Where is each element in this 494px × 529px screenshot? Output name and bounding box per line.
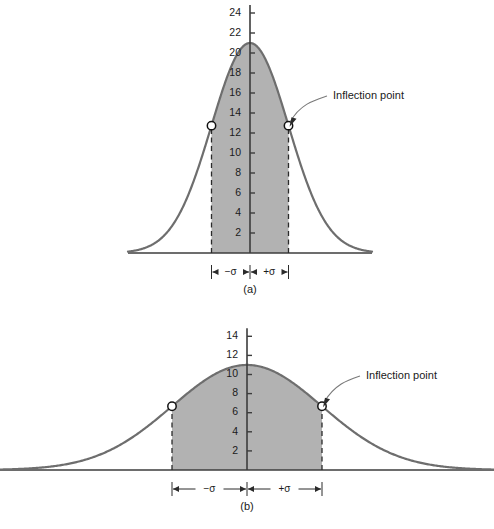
y-tick-label: 12 <box>226 348 238 360</box>
inflection-point-marker <box>207 121 215 129</box>
y-tick-label: 8 <box>235 166 241 178</box>
panel-a-caption: (a) <box>243 283 256 295</box>
y-tick-label: 12 <box>229 126 241 138</box>
y-tick-label: 10 <box>229 146 241 158</box>
y-tick-label: 2 <box>232 444 238 456</box>
sigma-arrowhead-right <box>282 269 288 275</box>
sigma-label: −σ <box>225 266 238 277</box>
y-tick-label: 24 <box>229 6 241 18</box>
y-tick-label: 14 <box>229 106 241 118</box>
y-tick-label: 8 <box>232 386 238 398</box>
y-tick-label: 22 <box>229 26 241 38</box>
y-tick-label: 18 <box>229 66 241 78</box>
panel-b: 2468101214 Inflection point −σ+σ (b) <box>0 328 494 512</box>
inflection-point-marker <box>168 402 176 410</box>
y-tick-label: 10 <box>226 367 238 379</box>
panel-b-annotation-label: Inflection point <box>366 369 437 381</box>
sigma-arrowhead-right <box>243 269 249 275</box>
y-tick-label: 6 <box>232 405 238 417</box>
panel-a-annotation-label: Inflection point <box>333 89 404 101</box>
panel-a-annotation-leader <box>291 96 328 122</box>
sigma-arrowhead-left <box>248 486 254 492</box>
sigma-arrowhead-left <box>173 486 179 492</box>
panel-b-caption: (b) <box>240 500 253 512</box>
panel-b-sigma-markers: −σ+σ <box>172 482 322 496</box>
sigma-arrowhead-right <box>315 486 321 492</box>
panel-a-sigma-markers: −σ+σ <box>212 265 289 279</box>
y-tick-label: 16 <box>229 86 241 98</box>
sigma-label: +σ <box>263 266 276 277</box>
y-tick-label: 4 <box>232 425 238 437</box>
y-tick-label: 4 <box>235 206 241 218</box>
panel-b-annotation-leader <box>324 376 360 402</box>
sigma-arrowhead-right <box>240 486 246 492</box>
y-tick-label: 20 <box>229 46 241 58</box>
figure-svg: 24681012141618202224 Inflection point −σ… <box>0 0 494 529</box>
sigma-arrowhead-left <box>251 269 257 275</box>
sigma-label: +σ <box>278 483 291 494</box>
sigma-arrowhead-left <box>213 269 219 275</box>
y-tick-label: 6 <box>235 186 241 198</box>
sigma-label: −σ <box>203 483 216 494</box>
panel-a: 24681012141618202224 Inflection point −σ… <box>128 5 404 295</box>
y-tick-label: 2 <box>235 226 241 238</box>
y-tick-label: 14 <box>226 329 238 341</box>
normal-distribution-figure: 24681012141618202224 Inflection point −σ… <box>0 0 494 529</box>
